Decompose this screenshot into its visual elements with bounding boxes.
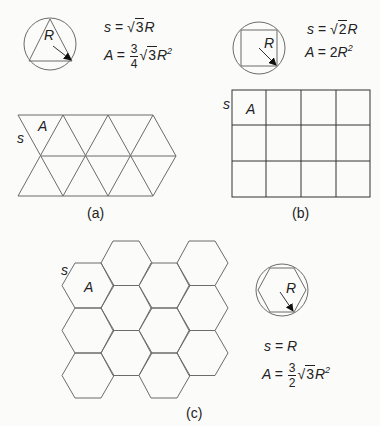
fraction: 32 bbox=[288, 362, 297, 389]
formula-eq: = bbox=[275, 366, 283, 382]
formula-eq: = bbox=[275, 338, 283, 354]
formula-eq: = bbox=[318, 21, 326, 37]
formula-eq: = bbox=[115, 19, 123, 35]
caption-b: (b) bbox=[292, 206, 309, 220]
formula-b-area: A = 2R2 bbox=[305, 44, 353, 59]
side-label-b: s bbox=[223, 97, 230, 111]
exponent: 2 bbox=[348, 43, 353, 53]
fraction-numerator: 3 bbox=[130, 43, 139, 57]
side-label-c: s bbox=[61, 263, 68, 277]
formula-eq: = bbox=[117, 47, 125, 63]
formula-var: R bbox=[338, 44, 348, 60]
area-label-a: A bbox=[38, 119, 47, 133]
caption-c: (c) bbox=[186, 406, 202, 420]
fraction: 34 bbox=[130, 43, 139, 70]
formula-var: R bbox=[315, 366, 325, 382]
exponent: 2 bbox=[325, 365, 330, 375]
sqrt-radicand: 2 bbox=[338, 20, 348, 37]
sqrt-radicand: 3 bbox=[305, 365, 315, 382]
exponent: 2 bbox=[167, 46, 172, 56]
formula-var: s bbox=[104, 19, 111, 35]
formula-c-side: s = R bbox=[264, 339, 297, 353]
side-label-a: s bbox=[17, 131, 24, 145]
formula-eq: = bbox=[318, 44, 326, 60]
sqrt-symbol: √3 bbox=[127, 18, 144, 35]
caption-a: (a) bbox=[87, 206, 104, 220]
formula-c-area: A = 32√3R2 bbox=[262, 362, 330, 389]
formula-var: A bbox=[262, 366, 271, 382]
hexagon-tessellation bbox=[62, 241, 228, 398]
formula-b-side: s = √2R bbox=[307, 22, 358, 36]
formula-var: s bbox=[264, 338, 271, 354]
formula-var: A bbox=[305, 44, 314, 60]
formula-var: s bbox=[307, 21, 314, 37]
formula-var: A bbox=[104, 47, 113, 63]
hexagon-circle-diagram bbox=[256, 264, 308, 316]
radius-label-a: R bbox=[44, 28, 54, 42]
area-label-c: A bbox=[84, 280, 93, 294]
sqrt-symbol: √3 bbox=[297, 365, 314, 382]
triangle-circle-diagram bbox=[24, 18, 76, 70]
sqrt-symbol: √2 bbox=[330, 20, 347, 37]
formula-coefficient: 2 bbox=[330, 44, 338, 60]
formula-a-side: s = √3R bbox=[104, 20, 155, 34]
tessellation-figure: R R R s = √3R A = 34√3R2 s = √2R A = 2R2… bbox=[0, 0, 380, 426]
fraction-numerator: 3 bbox=[288, 362, 297, 376]
radius-label-b: R bbox=[264, 36, 274, 50]
formula-var: R bbox=[157, 47, 167, 63]
square-circle-diagram bbox=[233, 22, 285, 74]
fraction-denominator: 2 bbox=[288, 376, 297, 389]
formula-var: R bbox=[144, 19, 154, 35]
formula-a-area: A = 34√3R2 bbox=[104, 43, 172, 70]
sqrt-symbol: √3 bbox=[139, 46, 156, 63]
sqrt-radicand: 3 bbox=[135, 18, 145, 35]
sqrt-radicand: 3 bbox=[147, 46, 157, 63]
area-label-b: A bbox=[246, 102, 255, 116]
fraction-denominator: 4 bbox=[130, 57, 139, 70]
formula-var: R bbox=[287, 338, 297, 354]
radius-label-c: R bbox=[286, 281, 296, 295]
formula-var: R bbox=[347, 21, 357, 37]
